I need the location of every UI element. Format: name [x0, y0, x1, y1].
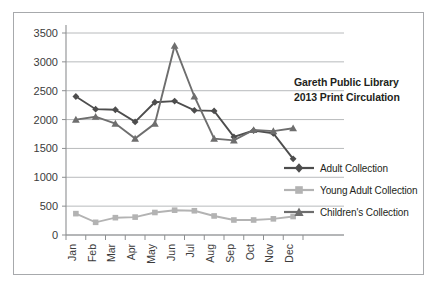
data-point-oct [251, 217, 257, 223]
data-point-jul [192, 208, 198, 214]
x-tick-label-oct: Oct [244, 244, 256, 260]
x-tick-label-apr: Apr [125, 244, 137, 261]
series-adult-collection [72, 93, 296, 162]
data-point-feb [93, 220, 99, 226]
x-tick-label-jul: Jul [184, 244, 196, 257]
legend-label-childrens-collection: Children's Collection [320, 207, 409, 218]
triangle-marker-icon [284, 205, 314, 219]
data-point-jun [171, 42, 179, 49]
data-point-nov [271, 216, 277, 222]
data-point-jun [171, 98, 178, 105]
y-tick-label-0: 0 [52, 229, 58, 241]
data-point-apr [132, 214, 138, 220]
data-point-jul [190, 93, 198, 100]
series-line [76, 46, 293, 141]
data-point-jun [172, 207, 178, 213]
legend-label-young-adult-collection: Young Adult Collection [320, 185, 418, 196]
x-tick-label-sep: Sep [224, 244, 236, 263]
series-line [76, 210, 293, 222]
line-chart-plot: 0500100015002000250030003500 JanFebMarAp… [14, 13, 423, 274]
legend-item-adult-collection[interactable]: Adult Collection [284, 157, 436, 179]
y-tick-label-2000: 2000 [34, 114, 58, 126]
x-tick-label-may: May [145, 243, 157, 264]
x-tick-label-feb: Feb [86, 244, 98, 262]
series-children-s-collection [72, 42, 297, 144]
x-tick-label-dec: Dec [283, 244, 295, 263]
x-tick-label-jan: Jan [66, 244, 78, 261]
x-tick-label-aug: Aug [204, 244, 216, 263]
data-point-sep [231, 217, 237, 223]
data-point-jan [73, 211, 79, 217]
y-tick-label-1500: 1500 [34, 142, 58, 154]
data-point-may [151, 120, 159, 127]
y-tick-label-1000: 1000 [34, 171, 58, 183]
x-tick-label-jun: Jun [165, 244, 177, 261]
y-tick-label-3000: 3000 [34, 56, 58, 68]
data-point-aug [211, 213, 217, 219]
chart-figure: 0500100015002000250030003500 JanFebMarAp… [0, 0, 436, 290]
legend-label-adult-collection: Adult Collection [320, 163, 388, 174]
data-point-may [152, 210, 158, 216]
square-marker-icon [284, 183, 314, 197]
x-tick-label-nov: Nov [263, 243, 275, 262]
legend-item-childrens-collection[interactable]: Children's Collection [284, 201, 436, 223]
legend-item-young-adult-collection[interactable]: Young Adult Collection [284, 179, 436, 201]
x-axis-tick-labels: JanFebMarAprMayJunJulAugSepOctNovDec [66, 243, 295, 264]
y-axis-tick-labels: 0500100015002000250030003500 [34, 27, 58, 241]
y-tick-label-3500: 3500 [34, 27, 58, 39]
chart-frame: 0500100015002000250030003500 JanFebMarAp… [13, 12, 424, 275]
data-point-jul [191, 107, 198, 114]
y-tick-label-2500: 2500 [34, 85, 58, 97]
series-line [76, 96, 293, 158]
x-tick-label-mar: Mar [105, 244, 117, 263]
diamond-marker-icon [284, 161, 314, 175]
chart-title-line-2: 2013 Print Circulation [294, 90, 434, 105]
data-series-group [72, 42, 297, 225]
series-young-adult-collection [73, 207, 296, 225]
y-tick-label-500: 500 [40, 200, 58, 212]
chart-title: Gareth Public Library 2013 Print Circula… [294, 75, 434, 105]
chart-legend: Adult Collection Young Adult Collection … [284, 157, 436, 223]
chart-title-line-1: Gareth Public Library [294, 75, 434, 90]
data-point-mar [113, 215, 119, 221]
